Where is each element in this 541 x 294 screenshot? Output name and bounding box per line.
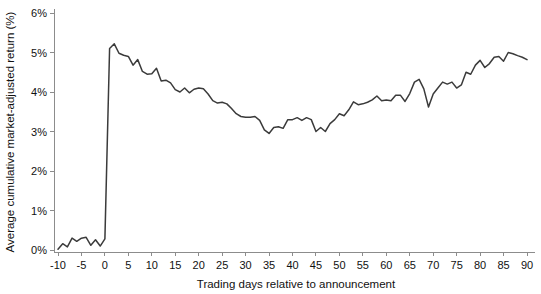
y-tick-label: 2% [31,165,47,177]
x-tick-label: 90 [521,259,533,271]
x-tick-label: 50 [333,259,345,271]
y-tick-label: 3% [31,126,47,138]
y-tick-label: 1% [31,205,47,217]
y-axis-title: Average cumulative market-adjusted retur… [4,11,16,252]
x-tick-label: 85 [497,259,509,271]
y-tick-label: 6% [31,7,47,19]
x-tick-label: 70 [427,259,439,271]
x-tick-label: 80 [474,259,486,271]
x-tick-label: 5 [125,259,131,271]
x-tick-label: 45 [310,259,322,271]
x-tick-label: 20 [193,259,205,271]
x-tick-label: -5 [77,259,87,271]
chart-page: 0%1%2%3%4%5%6%-10-5051015202530354045505… [0,0,541,294]
x-tick-label: 40 [286,259,298,271]
x-tick-label: 75 [451,259,463,271]
x-tick-label: 0 [102,259,108,271]
y-tick-label: 5% [31,47,47,59]
series-line-0 [58,44,527,249]
y-tick-label: 0% [31,244,47,256]
x-tick-label: 25 [216,259,228,271]
x-tick-label: 15 [169,259,181,271]
x-tick-label: 10 [146,259,158,271]
x-tick-label: 35 [263,259,275,271]
x-tick-label: 55 [357,259,369,271]
x-tick-label: -10 [50,259,66,271]
x-axis-title: Trading days relative to announcement [197,278,396,290]
line-chart: 0%1%2%3%4%5%6%-10-5051015202530354045505… [0,0,541,294]
x-tick-label: 65 [404,259,416,271]
y-tick-label: 4% [31,86,47,98]
x-tick-label: 60 [380,259,392,271]
x-tick-label: 30 [239,259,251,271]
